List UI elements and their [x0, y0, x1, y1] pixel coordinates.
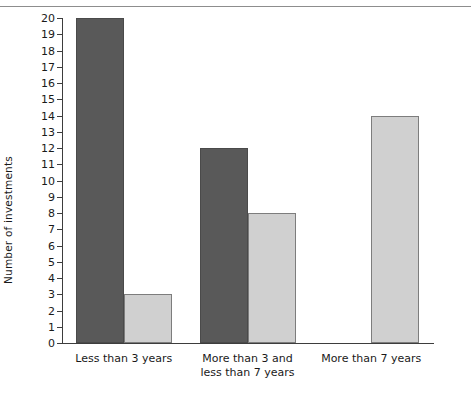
y-tick-label: 7	[48, 224, 55, 235]
y-tick-label: 4	[48, 273, 55, 284]
y-tick-mark	[57, 181, 62, 182]
x-axis-category-label-line: More than 7 years	[295, 352, 447, 366]
y-tick-label: 13	[41, 126, 55, 137]
y-tick-label: 6	[48, 240, 55, 251]
y-tick-mark	[57, 311, 62, 312]
y-tick-mark	[57, 213, 62, 214]
y-tick-label: 20	[41, 13, 55, 24]
y-tick-label: 9	[48, 191, 55, 202]
bar	[200, 148, 248, 343]
y-tick-label: 3	[48, 289, 55, 300]
x-axis-category-label-line: less than 7 years	[172, 366, 324, 380]
y-tick-mark	[57, 262, 62, 263]
y-tick-label: 18	[41, 45, 55, 56]
y-tick-mark	[57, 99, 62, 100]
y-tick-label: 0	[48, 338, 55, 349]
plot-area: 01234567891011121314151617181920	[62, 18, 433, 343]
y-tick-label: 16	[41, 78, 55, 89]
y-tick-label: 2	[48, 305, 55, 316]
y-tick-label: 15	[41, 94, 55, 105]
y-tick-mark	[57, 18, 62, 19]
y-tick-label: 1	[48, 321, 55, 332]
y-tick-mark	[57, 34, 62, 35]
y-tick-mark	[57, 229, 62, 230]
bar-chart: Number of investments 012345678910111213…	[0, 0, 471, 405]
y-tick-label: 11	[41, 159, 55, 170]
y-tick-mark	[57, 83, 62, 84]
x-axis-line	[62, 343, 434, 344]
y-tick-label: 17	[41, 61, 55, 72]
y-tick-label: 19	[41, 29, 55, 40]
y-tick-label: 10	[41, 175, 55, 186]
y-tick-mark	[57, 51, 62, 52]
y-tick-label: 12	[41, 143, 55, 154]
bar	[371, 116, 419, 344]
y-tick-label: 8	[48, 208, 55, 219]
x-axis-category-label: More than 7 years	[295, 352, 447, 366]
y-tick-mark	[57, 197, 62, 198]
y-tick-mark	[57, 164, 62, 165]
y-tick-mark	[57, 67, 62, 68]
bar	[248, 213, 296, 343]
y-tick-mark	[57, 148, 62, 149]
y-axis-title: Number of investments	[2, 150, 18, 290]
bar	[76, 18, 124, 343]
y-tick-mark	[57, 294, 62, 295]
y-tick-label: 14	[41, 110, 55, 121]
bar	[124, 294, 172, 343]
y-tick-mark	[57, 116, 62, 117]
y-tick-label: 5	[48, 256, 55, 267]
y-tick-mark	[57, 343, 62, 344]
y-tick-mark	[57, 132, 62, 133]
y-tick-mark	[57, 327, 62, 328]
y-tick-mark	[57, 246, 62, 247]
y-tick-mark	[57, 278, 62, 279]
